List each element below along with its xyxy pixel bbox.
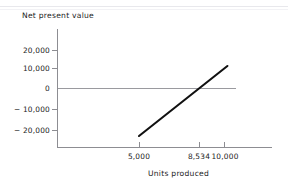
chart-figure: Net present value 20,000 10,000 0 − 10,0… bbox=[0, 0, 288, 188]
x-tick-label: 8,534 bbox=[188, 152, 210, 161]
y-tick-mark bbox=[52, 109, 58, 110]
y-tick-label: − 20,000 bbox=[2, 126, 50, 135]
x-tick-label: 5,000 bbox=[128, 152, 150, 161]
x-tick-mark bbox=[139, 142, 140, 148]
y-tick-mark bbox=[52, 68, 58, 69]
npv-data-line bbox=[139, 66, 227, 136]
y-tick-label-group: 20,000 10,000 0 − 10,000 − 20,000 bbox=[0, 0, 50, 188]
y-tick-label: − 10,000 bbox=[2, 105, 50, 114]
y-tick-mark bbox=[52, 50, 58, 51]
x-tick-mark bbox=[224, 142, 225, 148]
x-tick-mark bbox=[199, 142, 200, 148]
x-axis-title: Units produced bbox=[148, 169, 209, 178]
y-tick-label: 20,000 bbox=[2, 46, 50, 55]
x-tick-label: 10,000 bbox=[211, 152, 238, 161]
y-tick-mark bbox=[52, 130, 58, 131]
y-tick-label: 0 bbox=[2, 84, 50, 93]
zero-reference-line bbox=[58, 88, 236, 89]
x-axis-line bbox=[57, 147, 272, 148]
y-tick-label: 10,000 bbox=[2, 64, 50, 73]
